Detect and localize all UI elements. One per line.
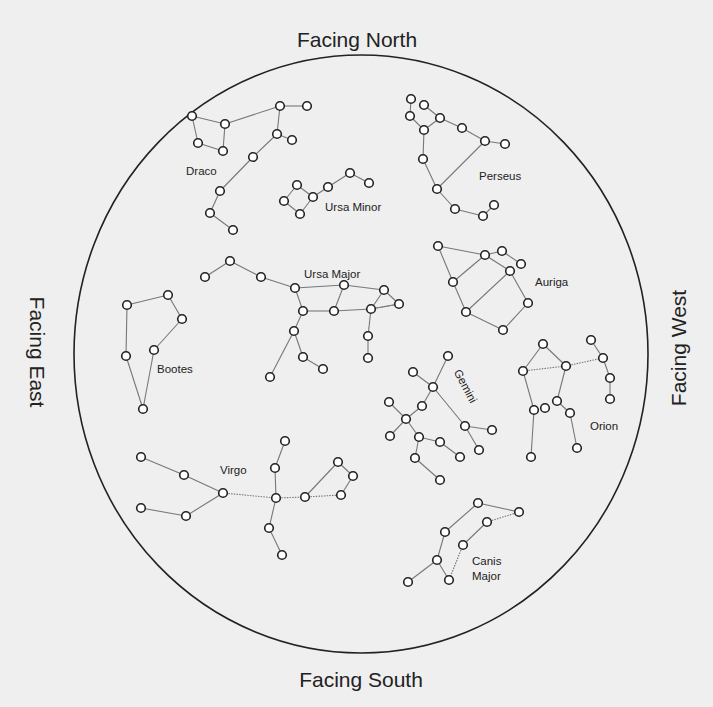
sky-circle — [74, 55, 648, 653]
star-icon — [541, 404, 550, 413]
star-icon — [139, 405, 148, 414]
direction-north-label: Facing North — [297, 28, 417, 51]
star-icon — [402, 415, 411, 424]
star-icon — [459, 541, 468, 550]
star-icon — [498, 247, 507, 256]
star-icon — [201, 273, 210, 282]
star-icon — [419, 155, 428, 164]
star-icon — [296, 210, 305, 219]
star-icon — [599, 354, 608, 363]
star-icon — [527, 453, 536, 462]
constellation-label-virgo: Virgo — [220, 464, 247, 476]
constellation-line — [223, 493, 276, 498]
constellation-line — [154, 319, 182, 350]
constellation-line — [127, 295, 168, 305]
star-icon — [481, 251, 490, 260]
constellation-line — [438, 246, 453, 282]
star-icon — [587, 336, 596, 345]
star-icon — [483, 518, 492, 527]
star-icon — [293, 181, 302, 190]
constellation-line — [503, 303, 528, 330]
star-icon — [395, 300, 404, 309]
star-icon — [451, 205, 460, 214]
star-icon — [456, 453, 465, 462]
star-icon — [606, 395, 615, 404]
constellation-line — [334, 309, 371, 311]
star-icon — [562, 362, 571, 371]
star-icon — [226, 257, 235, 266]
star-icon — [449, 278, 458, 287]
star-icon — [409, 368, 418, 377]
constellation-line — [305, 495, 341, 497]
constellation-line — [466, 312, 503, 330]
star-icon — [404, 578, 413, 587]
star-icon — [334, 458, 343, 467]
constellation-line — [433, 387, 465, 426]
star-icon — [257, 273, 266, 282]
star-icon — [433, 185, 442, 194]
constellation-line — [437, 141, 485, 189]
star-icon — [406, 112, 415, 121]
constellation-line — [408, 560, 437, 582]
constellation-orion-lines — [523, 340, 610, 457]
star-icon — [221, 120, 230, 129]
constellation-label-bootes: Bootes — [157, 363, 193, 375]
star-icon — [290, 327, 299, 336]
star-icon — [488, 426, 497, 435]
star-icon — [475, 446, 484, 455]
constellation-line — [295, 285, 344, 288]
star-icon — [481, 137, 490, 146]
star-icon — [340, 281, 349, 290]
star-icon — [444, 352, 453, 361]
constellation-line — [305, 462, 338, 497]
star-icon — [164, 291, 173, 300]
direction-west-label: Facing West — [667, 290, 690, 406]
star-icon — [429, 383, 438, 392]
star-icon — [445, 576, 454, 585]
star-icon — [380, 286, 389, 295]
star-icon — [501, 140, 510, 149]
constellation-line — [510, 271, 528, 303]
star-icon — [553, 397, 562, 406]
star-icon — [367, 305, 376, 314]
constellation-line — [141, 457, 184, 475]
star-icon — [291, 284, 300, 293]
constellation-line — [225, 106, 280, 124]
star-icon — [349, 472, 358, 481]
star-icon — [364, 354, 373, 363]
star-icon — [301, 493, 310, 502]
star-icon — [229, 226, 238, 235]
star-icon — [474, 499, 483, 508]
star-icon — [346, 169, 355, 178]
star-icon — [420, 126, 429, 135]
star-chart: DracoUrsa MinorPerseusAurigaUrsa MajorBo… — [0, 0, 713, 707]
constellation-line — [453, 255, 485, 282]
constellation-line — [523, 371, 534, 410]
constellation-line — [557, 366, 566, 401]
star-icon — [272, 494, 281, 503]
constellation-line — [126, 305, 127, 356]
star-icon — [506, 267, 515, 276]
star-icon — [462, 308, 471, 317]
star-icon — [436, 438, 445, 447]
star-icon — [309, 193, 318, 202]
constellation-line — [186, 493, 223, 516]
star-icon — [299, 307, 308, 316]
star-icon — [434, 242, 443, 251]
star-icon — [273, 130, 282, 139]
constellation-line — [570, 413, 577, 448]
direction-east-label: Facing East — [26, 297, 49, 408]
star-icon — [330, 307, 339, 316]
constellation-line — [143, 350, 154, 409]
star-icon — [122, 352, 131, 361]
star-icon — [519, 367, 528, 376]
star-icon — [433, 556, 442, 565]
star-icon — [517, 260, 526, 269]
star-icon — [539, 340, 548, 349]
star-icon — [180, 471, 189, 480]
star-icon — [499, 326, 508, 335]
star-icon — [123, 301, 132, 310]
star-icon — [278, 551, 287, 560]
star-icon — [219, 489, 228, 498]
star-icon — [281, 437, 290, 446]
